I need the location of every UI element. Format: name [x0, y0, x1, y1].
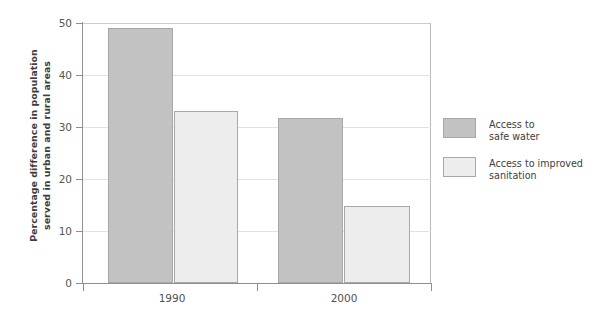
legend-swatch-sanitation: [443, 157, 476, 177]
x-tick-mark-middle: [257, 284, 258, 291]
y-tick-label-40: 40: [40, 70, 72, 80]
y-axis-title-line1: Percentage difference in population: [28, 49, 39, 242]
x-axis-label-2000: 2000: [304, 292, 384, 304]
y-tick-label-20: 20: [40, 174, 72, 184]
x-tick-mark-left: [83, 284, 84, 291]
x-tick-mark-right: [431, 284, 432, 291]
bar-2000-safe-water: [278, 118, 343, 283]
bar-2000-sanitation: [344, 206, 410, 283]
bar-chart-figure: Percentage difference in population serv…: [0, 0, 599, 321]
plot-area: [83, 23, 431, 283]
legend-item-safe-water: Access tosafe water: [443, 118, 540, 142]
y-axis-title: Percentage difference in population serv…: [18, 0, 62, 290]
y-tick-label-0: 0: [40, 278, 72, 288]
y-tick-label-50: 50: [40, 18, 72, 28]
y-tick-label-30: 30: [40, 122, 72, 132]
legend-label-sanitation: Access to improvedsanitation: [489, 157, 583, 181]
bar-1990-sanitation: [174, 111, 238, 283]
bar-1990-safe-water: [108, 28, 173, 283]
legend-item-sanitation: Access to improvedsanitation: [443, 157, 583, 181]
y-tick-label-10: 10: [40, 226, 72, 236]
legend-label-safe-water: Access tosafe water: [489, 118, 540, 142]
x-axis-line: [76, 283, 432, 284]
legend-swatch-safe-water: [443, 118, 476, 138]
x-axis-label-1990: 1990: [132, 292, 212, 304]
